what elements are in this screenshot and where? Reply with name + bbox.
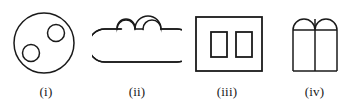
arch-top-right	[315, 19, 337, 30]
figure-iii: (iii)	[182, 0, 272, 109]
figure-iii-drawing	[182, 0, 272, 85]
figure-iii-label: (iii)	[182, 85, 272, 98]
circle-bottom-mask	[117, 30, 161, 42]
figure-iv-label: (iv)	[272, 85, 357, 98]
figure-iv: (iv)	[272, 0, 357, 109]
figure-i: (i)	[0, 0, 92, 109]
inner-circle-lower-left	[23, 45, 40, 62]
figure-ii-drawing	[92, 0, 182, 85]
figure-i-label: (i)	[0, 85, 92, 98]
figure-i-drawing	[0, 0, 92, 85]
arch-top-left	[293, 19, 315, 30]
figure-iv-drawing	[272, 0, 357, 85]
stadium-right-edge	[161, 29, 182, 62]
figure-panel: (i) (ii) (iii)	[0, 0, 357, 109]
inner-rectangle-left	[211, 32, 227, 57]
figure-ii: (ii)	[92, 0, 182, 109]
outer-circle	[14, 13, 74, 73]
figure-ii-label: (ii)	[92, 85, 182, 98]
inner-rectangle-right	[236, 32, 252, 57]
inner-circle-upper-right	[48, 25, 65, 42]
